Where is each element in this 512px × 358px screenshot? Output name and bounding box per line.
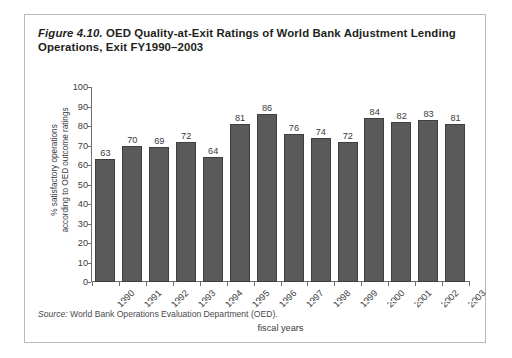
y-axis-label-line-1: % satisfactory operations xyxy=(49,70,60,270)
bar-group-1998[interactable]: 74 xyxy=(307,87,334,282)
bar-group-1992[interactable]: 69 xyxy=(146,87,173,282)
bar-value-2003: 81 xyxy=(442,113,469,123)
x-axis-tick-1998: 1998 xyxy=(331,288,353,310)
y-axis-tick-50: 50 xyxy=(62,180,88,190)
figure-number: Figure 4.10. xyxy=(38,27,103,39)
y-axis-tick-mark xyxy=(87,243,91,244)
y-axis-tick-labels: 0102030405060708090100 xyxy=(62,87,88,281)
bar-group-2001[interactable]: 82 xyxy=(388,87,415,282)
bar-value-1995: 81 xyxy=(227,113,254,123)
x-axis-tick-mark xyxy=(146,281,147,286)
bar-group-2002[interactable]: 83 xyxy=(415,87,442,282)
bar-1997[interactable] xyxy=(284,134,304,282)
y-axis-tick-mark xyxy=(87,282,91,283)
x-axis-tick-1996: 1996 xyxy=(277,288,299,310)
y-axis-tick-mark xyxy=(87,146,91,147)
bar-group-1996[interactable]: 86 xyxy=(254,87,281,282)
bar-group-1995[interactable]: 81 xyxy=(227,87,254,282)
y-axis-tick-mark xyxy=(87,263,91,264)
x-axis-tick-1994: 1994 xyxy=(223,288,245,310)
y-axis-tick-mark xyxy=(87,204,91,205)
bar-1990[interactable] xyxy=(95,159,115,282)
x-axis-tick-1991: 1991 xyxy=(142,288,164,310)
y-axis-tick-mark xyxy=(87,165,91,166)
x-axis-tick-2001: 2001 xyxy=(412,288,434,310)
bar-2002[interactable] xyxy=(418,120,438,282)
bar-2001[interactable] xyxy=(391,122,411,282)
x-axis-tick-mark xyxy=(388,281,389,286)
y-axis-tick-mark xyxy=(87,126,91,127)
y-axis-tick-30: 30 xyxy=(62,219,88,229)
bar-value-1994: 64 xyxy=(200,146,227,156)
y-axis-tick-70: 70 xyxy=(62,141,88,151)
bar-1999[interactable] xyxy=(338,142,358,282)
figure-title: Figure 4.10. OED Quality-at-Exit Ratings… xyxy=(38,26,462,55)
figure-container: Figure 4.10. OED Quality-at-Exit Ratings… xyxy=(24,14,486,343)
x-axis-tick-mark xyxy=(415,281,416,286)
x-axis-tick-1990: 1990 xyxy=(115,288,137,310)
x-axis-tick-mark xyxy=(173,281,174,286)
bar-value-1999: 72 xyxy=(334,131,361,141)
bar-1993[interactable] xyxy=(176,142,196,282)
y-axis-tick-60: 60 xyxy=(62,160,88,170)
x-axis-tick-mark xyxy=(361,281,362,286)
y-axis-tick-90: 90 xyxy=(62,102,88,112)
x-axis-tick-mark xyxy=(254,281,255,286)
bar-2000[interactable] xyxy=(364,118,384,282)
bar-1992[interactable] xyxy=(149,147,169,282)
x-axis-tick-2002: 2002 xyxy=(439,288,461,310)
x-axis-tick-2000: 2000 xyxy=(385,288,407,310)
y-axis-tick-0: 0 xyxy=(62,277,88,287)
source-divider xyxy=(25,301,485,302)
x-axis-tick-mark xyxy=(469,281,470,286)
bar-group-1997[interactable]: 76 xyxy=(281,87,308,282)
bar-group-2003[interactable]: 81 xyxy=(442,87,469,282)
y-axis-tick-40: 40 xyxy=(62,199,88,209)
bar-value-1992: 69 xyxy=(146,136,173,146)
source-label: Source: xyxy=(38,309,68,319)
x-axis-tick-2003: 2003 xyxy=(466,288,488,310)
bar-1991[interactable] xyxy=(122,146,142,283)
bar-group-1994[interactable]: 64 xyxy=(200,87,227,282)
x-axis-tick-1992: 1992 xyxy=(169,288,191,310)
bar-1995[interactable] xyxy=(230,124,250,282)
x-axis-tick-mark xyxy=(227,281,228,286)
bar-value-2000: 84 xyxy=(361,107,388,117)
x-axis-tick-mark xyxy=(442,281,443,286)
y-axis-tick-100: 100 xyxy=(62,82,88,92)
x-axis-tick-mark xyxy=(92,281,93,286)
bar-group-1999[interactable]: 72 xyxy=(334,87,361,282)
bar-2003[interactable] xyxy=(445,124,465,282)
bar-1998[interactable] xyxy=(311,138,331,282)
x-axis-tick-mark xyxy=(334,281,335,286)
bar-value-1996: 86 xyxy=(254,103,281,113)
y-axis-tick-mark xyxy=(87,224,91,225)
y-axis-tick-mark xyxy=(87,107,91,108)
bar-group-1991[interactable]: 70 xyxy=(119,87,146,282)
source-text: World Bank Operations Evaluation Departm… xyxy=(68,309,278,319)
y-axis-tick-20: 20 xyxy=(62,238,88,248)
bar-value-1990: 63 xyxy=(92,148,119,158)
bar-value-1998: 74 xyxy=(307,127,334,137)
chart-plot-area: % satisfactory operations according to O… xyxy=(38,65,474,297)
bar-value-1993: 72 xyxy=(173,131,200,141)
y-axis-tick-10: 10 xyxy=(62,258,88,268)
bar-value-2001: 82 xyxy=(388,111,415,121)
x-axis-tick-mark xyxy=(200,281,201,286)
y-axis-tick-mark xyxy=(87,185,91,186)
bar-value-2002: 83 xyxy=(415,109,442,119)
x-axis-tick-mark xyxy=(307,281,308,286)
bar-1994[interactable] xyxy=(203,157,223,282)
bar-group-1993[interactable]: 72 xyxy=(173,87,200,282)
bar-group-2000[interactable]: 84 xyxy=(361,87,388,282)
bar-series: 6370697264818676747284828381 xyxy=(92,87,469,282)
x-axis-tick-1995: 1995 xyxy=(250,288,272,310)
x-axis-tick-mark xyxy=(119,281,120,286)
bar-group-1990[interactable]: 63 xyxy=(92,87,119,282)
source-note: Source: World Bank Operations Evaluation… xyxy=(38,309,278,319)
x-axis-tick-mark xyxy=(281,281,282,286)
y-axis-tick-80: 80 xyxy=(62,121,88,131)
x-axis-tick-1997: 1997 xyxy=(304,288,326,310)
x-axis-title: fiscal years xyxy=(92,323,469,333)
bar-1996[interactable] xyxy=(257,114,277,282)
